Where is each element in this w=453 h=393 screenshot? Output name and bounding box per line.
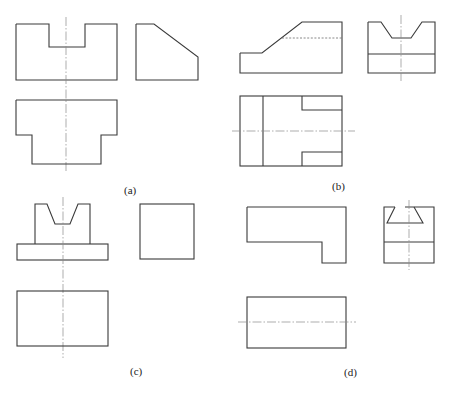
panel-b-top-notch-upper — [302, 96, 342, 110]
panel-c — [17, 197, 194, 358]
panel-a-top-view — [16, 100, 117, 164]
panel-d-front-view — [247, 207, 346, 263]
panel-a-side-view — [136, 24, 198, 80]
panel-a-front-view — [16, 24, 117, 80]
panel-b-front-view — [240, 22, 342, 73]
panel-b — [232, 15, 435, 166]
panel-c-front-view-base — [17, 244, 108, 260]
panel-d-top-view — [247, 297, 346, 348]
panel-c-side-view — [140, 204, 194, 259]
panel-b-side-view — [368, 22, 435, 73]
panel-b-top-notch-lower — [302, 152, 342, 166]
panel-d-dovetail-slot — [387, 207, 423, 223]
panel-c-top-view — [17, 291, 108, 346]
panel-a-label: (a) — [124, 184, 136, 196]
panel-c-front-view-upper — [35, 204, 90, 244]
panel-d-label: (d) — [344, 366, 357, 378]
panel-b-label: (b) — [332, 180, 345, 192]
panel-a — [16, 17, 198, 172]
orthographic-drawing — [0, 0, 453, 393]
panel-d — [238, 200, 434, 348]
panel-c-label: (c) — [130, 365, 142, 377]
